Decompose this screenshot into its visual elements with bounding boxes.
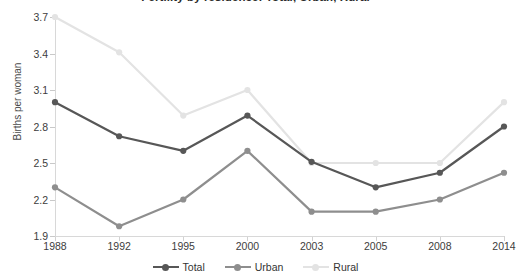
data-point (180, 148, 186, 154)
data-point (308, 209, 314, 215)
series-line (55, 17, 504, 163)
data-point (308, 159, 314, 165)
legend-item-rural[interactable]: Rural (303, 261, 358, 273)
data-point (373, 160, 379, 166)
chart-legend: TotalUrbanRural (0, 258, 511, 276)
data-point (180, 112, 186, 118)
data-point (52, 99, 58, 105)
data-point (52, 14, 58, 20)
data-point (116, 133, 122, 139)
data-point (244, 112, 250, 118)
data-point (373, 184, 379, 190)
data-point (501, 123, 507, 129)
series-line (55, 102, 504, 187)
series-rural (52, 14, 507, 166)
legend-swatch-icon (153, 262, 179, 272)
data-point (373, 209, 379, 215)
legend-item-label: Rural (333, 261, 358, 273)
legend-item-urban[interactable]: Urban (225, 261, 284, 273)
data-point (437, 196, 443, 202)
legend-item-label: Urban (255, 261, 284, 273)
data-point (437, 160, 443, 166)
legend-item-total[interactable]: Total (153, 261, 205, 273)
legend-swatch-icon (303, 262, 329, 272)
data-point (180, 196, 186, 202)
data-point (437, 170, 443, 176)
data-point (116, 223, 122, 229)
data-point (501, 99, 507, 105)
series-urban (52, 148, 507, 230)
data-point (116, 49, 122, 55)
legend-swatch-icon (225, 262, 251, 272)
data-point (52, 184, 58, 190)
series-total (52, 99, 507, 190)
data-point (244, 148, 250, 154)
legend-item-label: Total (183, 261, 205, 273)
data-point (244, 87, 250, 93)
data-point (501, 170, 507, 176)
